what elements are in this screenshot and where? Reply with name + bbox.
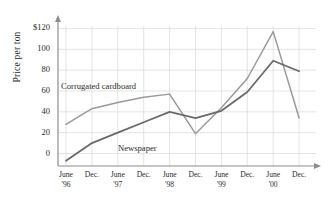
chart-axes bbox=[55, 15, 321, 169]
x-axis-arrow-icon bbox=[314, 163, 321, 169]
series-line-newspaper bbox=[66, 61, 299, 161]
series-label-newspaper: Newspaper bbox=[118, 143, 157, 153]
y-tick-label: 100 bbox=[10, 44, 50, 53]
series-polylines bbox=[66, 32, 299, 161]
series-label-corrugated-cardboard: Corrugated cardboard bbox=[61, 81, 136, 91]
y-tick-label: 80 bbox=[10, 65, 50, 74]
y-tick-label: 40 bbox=[10, 107, 50, 116]
y-tick-label: 60 bbox=[10, 86, 50, 95]
y-tick-label: 0 bbox=[10, 149, 50, 158]
y-tick-label: $120 bbox=[10, 23, 50, 32]
y-axis-tick-labels: 020406080100$120 bbox=[10, 0, 50, 199]
y-tick-label: 20 bbox=[10, 128, 50, 137]
price-per-ton-line-chart: Price per ton 020406080100$120 June'96De… bbox=[0, 0, 328, 199]
y-axis-arrow-icon bbox=[55, 15, 61, 22]
x-tick-label: Dec. bbox=[278, 170, 320, 180]
